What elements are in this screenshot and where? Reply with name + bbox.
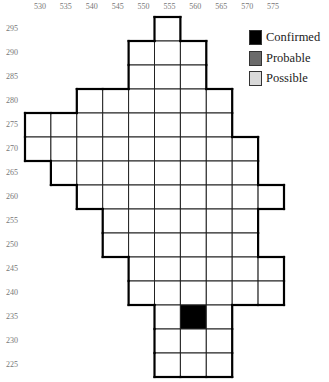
legend-label: Possible xyxy=(266,71,308,86)
grid-cell-560-245 xyxy=(180,257,206,281)
grid-cell-555-270 xyxy=(155,137,181,161)
grid-cell-535-275 xyxy=(51,113,77,137)
grid-cell-565-230 xyxy=(206,329,232,353)
grid-cell-560-255 xyxy=(180,209,206,233)
grid-cell-555-225 xyxy=(155,353,181,377)
y-axis-label: 260 xyxy=(6,192,18,201)
grid-cell-530-270 xyxy=(25,137,51,161)
x-axis-label: 535 xyxy=(60,2,72,11)
y-axis-label: 265 xyxy=(6,168,18,177)
grid-cell-555-235 xyxy=(155,305,181,329)
legend-label: Confirmed xyxy=(266,30,320,45)
grid-cell-570-260 xyxy=(232,185,258,209)
grid-cell-560-240 xyxy=(180,281,206,305)
grid-cell-555-230 xyxy=(155,329,181,353)
y-axis-label: 295 xyxy=(6,24,18,33)
grid-cell-550-270 xyxy=(129,137,155,161)
grid-cell-565-235 xyxy=(206,305,232,329)
grid-cell-560-290 xyxy=(180,41,206,65)
y-axis-label: 225 xyxy=(6,360,18,369)
grid-cell-565-255 xyxy=(206,209,232,233)
y-axis-label: 240 xyxy=(6,288,18,297)
grid-cell-560-285 xyxy=(180,65,206,89)
grid-cell-555-260 xyxy=(155,185,181,209)
y-axis-label: 285 xyxy=(6,72,18,81)
grid-cell-560-280 xyxy=(180,89,206,113)
grid-cell-570-250 xyxy=(232,233,258,257)
y-axis-label: 280 xyxy=(6,96,18,105)
grid-cell-545-265 xyxy=(103,161,129,185)
possible-swatch-icon xyxy=(249,71,262,86)
grid-cell-555-240 xyxy=(155,281,181,305)
grid-cell-550-275 xyxy=(129,113,155,137)
grid-cell-550-245 xyxy=(129,257,155,281)
y-axis-label: 245 xyxy=(6,264,18,273)
grid-cell-560-275 xyxy=(180,113,206,137)
x-axis-label: 540 xyxy=(86,2,98,11)
grid-cell-545-255 xyxy=(103,209,129,233)
x-axis-label: 555 xyxy=(163,2,175,11)
grid-cell-565-260 xyxy=(206,185,232,209)
x-axis-label: 550 xyxy=(138,2,150,11)
grid-cell-575-245 xyxy=(258,257,284,281)
grid-cell-565-265 xyxy=(206,161,232,185)
legend-label: Probable xyxy=(266,51,310,66)
grid-cell-535-265 xyxy=(51,161,77,185)
grid-cell-570-240 xyxy=(232,281,258,305)
x-axis-label: 560 xyxy=(189,2,201,11)
grid-cell-550-255 xyxy=(129,209,155,233)
y-axis-label: 255 xyxy=(6,216,18,225)
x-axis-label: 545 xyxy=(112,2,124,11)
grid-cell-550-285 xyxy=(129,65,155,89)
grid-cell-550-290 xyxy=(129,41,155,65)
x-axis-label: 565 xyxy=(215,2,227,11)
y-axis-label: 290 xyxy=(6,48,18,57)
y-axis-label: 250 xyxy=(6,240,18,249)
grid-cell-560-260 xyxy=(180,185,206,209)
grid-cell-565-225 xyxy=(206,353,232,377)
legend-item-confirmed: Confirmed xyxy=(249,30,320,45)
grid-cell-570-270 xyxy=(232,137,258,161)
grid-cell-550-240 xyxy=(129,281,155,305)
grid-cell-545-280 xyxy=(103,89,129,113)
grid-cell-565-270 xyxy=(206,137,232,161)
y-axis-label: 230 xyxy=(6,336,18,345)
y-axis-label: 275 xyxy=(6,120,18,129)
grid-cell-550-280 xyxy=(129,89,155,113)
x-axis-label: 570 xyxy=(241,2,253,11)
grid-cell-545-250 xyxy=(103,233,129,257)
grid-cell-545-270 xyxy=(103,137,129,161)
grid-cell-560-230 xyxy=(180,329,206,353)
grid-cell-560-270 xyxy=(180,137,206,161)
grid-cell-535-270 xyxy=(51,137,77,161)
grid-cell-565-245 xyxy=(206,257,232,281)
grid-cell-550-265 xyxy=(129,161,155,185)
grid-cell-555-280 xyxy=(155,89,181,113)
grid-cell-560-225 xyxy=(180,353,206,377)
grid-cell-570-245 xyxy=(232,257,258,281)
grid-cell-570-255 xyxy=(232,209,258,233)
grid-cell-530-275 xyxy=(25,113,51,137)
grid-cell-555-245 xyxy=(155,257,181,281)
grid-cell-550-260 xyxy=(129,185,155,209)
grid-cell-540-280 xyxy=(77,89,103,113)
grid-cell-565-250 xyxy=(206,233,232,257)
legend-item-possible: Possible xyxy=(249,71,308,86)
grid-cell-570-265 xyxy=(232,161,258,185)
grid-cell-555-295 xyxy=(155,17,181,41)
grid-cell-545-260 xyxy=(103,185,129,209)
x-axis-label: 575 xyxy=(267,2,279,11)
legend-item-probable: Probable xyxy=(249,51,310,66)
grid-cell-540-260 xyxy=(77,185,103,209)
probable-swatch-icon xyxy=(249,51,262,66)
grid-cell-545-275 xyxy=(103,113,129,137)
grid-cell-565-275 xyxy=(206,113,232,137)
confirmed-swatch-icon xyxy=(249,30,262,45)
grid-cell-555-275 xyxy=(155,113,181,137)
grid-cell-540-265 xyxy=(77,161,103,185)
grid-cell-550-250 xyxy=(129,233,155,257)
grid-cell-555-250 xyxy=(155,233,181,257)
grid-cell-540-275 xyxy=(77,113,103,137)
grid-cell-560-250 xyxy=(180,233,206,257)
grid-cell-575-260 xyxy=(258,185,284,209)
